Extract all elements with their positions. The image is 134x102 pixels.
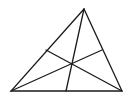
triangle-diagram — [0, 0, 134, 102]
cevian-from-apex — [66, 9, 84, 91]
triangle-outline — [11, 9, 122, 91]
triangle-svg — [0, 0, 134, 102]
